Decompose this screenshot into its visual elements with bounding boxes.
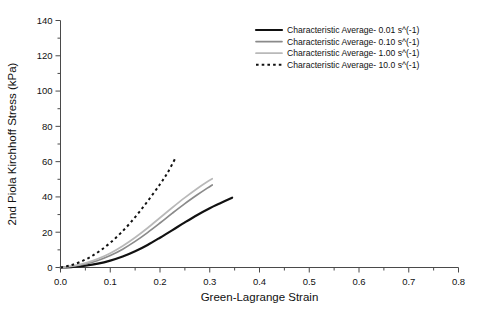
chart-container: 0.00.10.20.30.40.50.60.70.80204060801001… (0, 0, 477, 312)
chart-plot-area: 0.00.10.20.30.40.50.60.70.80204060801001… (0, 0, 477, 312)
series-line-2 (61, 179, 213, 268)
legend-label-2: Characteristic Average- 1.00 s^(-1) (287, 48, 419, 58)
x-tick-label: 0.5 (303, 276, 316, 287)
x-tick-label: 0.7 (402, 276, 415, 287)
y-tick-label: 100 (37, 85, 53, 96)
x-tick-label: 0.3 (203, 276, 216, 287)
series-group (61, 159, 233, 268)
legend-label-3: Characteristic Average- 10.0 s^(-1) (287, 60, 419, 70)
series-line-1 (61, 185, 213, 268)
x-tick-label: 0.6 (352, 276, 365, 287)
y-tick-label: 80 (42, 121, 53, 132)
x-tick-label: 0.4 (253, 276, 266, 287)
y-tick-label: 0 (47, 262, 52, 273)
y-tick-label: 120 (37, 50, 53, 61)
x-axis-title: Green-Lagrange Strain (201, 291, 319, 303)
x-tick-label: 0.8 (452, 276, 465, 287)
y-tick-label: 20 (42, 227, 53, 238)
legend-label-1: Characteristic Average- 0.10 s^(-1) (287, 37, 419, 47)
y-tick-label: 40 (42, 191, 53, 202)
x-tick-label: 0.0 (54, 276, 67, 287)
x-tick-label: 0.2 (153, 276, 166, 287)
y-tick-label: 140 (37, 15, 53, 26)
y-tick-label: 60 (42, 156, 53, 167)
legend-label-0: Characteristic Average- 0.01 s^(-1) (287, 25, 419, 35)
x-tick-label: 0.1 (104, 276, 117, 287)
legend: Characteristic Average- 0.01 s^(-1)Chara… (256, 25, 419, 70)
y-axis-title: 2nd Piola Kirchhoff Stress (kPa) (6, 62, 18, 225)
